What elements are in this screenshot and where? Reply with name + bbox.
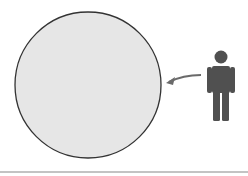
curved-arrow-icon: [166, 75, 201, 85]
large-circle: [15, 12, 161, 158]
person-icon: [207, 51, 235, 122]
diagram-canvas: [0, 0, 248, 176]
